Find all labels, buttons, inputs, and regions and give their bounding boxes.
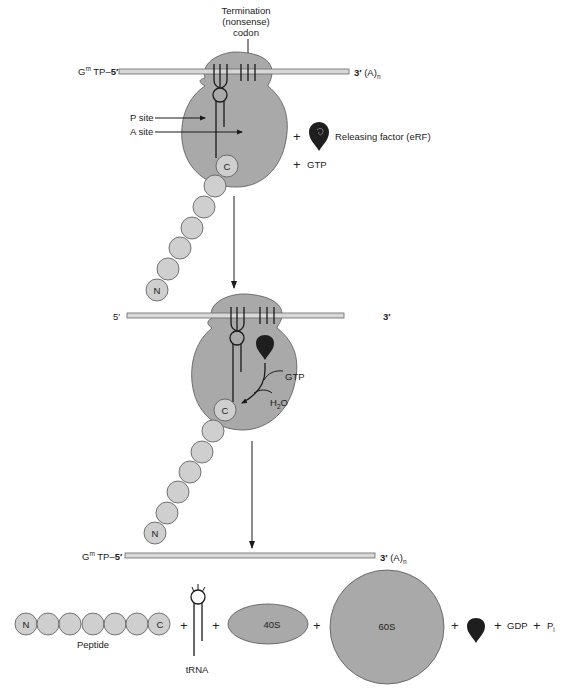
small-subunit-label: 40S <box>264 619 281 630</box>
peptide-label: Peptide <box>77 639 109 650</box>
a-site-label: A site <box>130 126 153 137</box>
svg-text:+: + <box>293 129 301 144</box>
release-factor-icon <box>309 122 329 151</box>
release-factor-label: Releasing factor (eRF) <box>335 131 431 142</box>
mrna-3prime-label-2: 3′ <box>383 311 391 322</box>
released-peptide: N C <box>15 613 170 635</box>
free-trna <box>191 584 205 656</box>
svg-text:+: + <box>293 157 301 172</box>
svg-text:N: N <box>154 285 161 296</box>
mrna-5prime-label-3: Gm TP–5′ <box>82 550 123 562</box>
codon-label-line1: Termination <box>221 5 270 16</box>
codon-label-line2: (nonsense) <box>222 16 270 27</box>
svg-text:N: N <box>23 619 30 630</box>
mrna-strand-3 <box>125 553 375 558</box>
gtp-label-1: GTP <box>307 159 327 170</box>
nascent-peptide-1: C N <box>146 155 238 301</box>
trna-label: tRNA <box>186 664 209 675</box>
mrna-strand-2 <box>127 313 344 318</box>
mrna-3prime-label-3: 3′ (A)n <box>380 552 407 565</box>
pi-label: Pi <box>547 620 555 633</box>
svg-text:+: + <box>451 618 459 633</box>
svg-text:N: N <box>152 528 159 539</box>
svg-text:+: + <box>180 618 188 633</box>
nascent-peptide-2: C N <box>144 399 236 544</box>
release-factor-free-icon <box>467 618 485 643</box>
mrna-5prime-label-1: Gm TP–5′ <box>78 65 119 77</box>
large-subunit-label: 60S <box>379 621 396 632</box>
panel-1-termination-recognition: Termination (nonsense) codon Gm TP–5′ 3′… <box>78 5 431 301</box>
gdp-label: GDP <box>507 620 528 631</box>
svg-text:+: + <box>212 618 220 633</box>
mrna-5prime-label-2: 5′ <box>113 311 120 322</box>
svg-text:C: C <box>222 405 229 416</box>
codon-label-line3: codon <box>233 27 259 38</box>
svg-text:+: + <box>494 618 502 633</box>
svg-text:C: C <box>157 619 164 630</box>
p-site-label: P site <box>130 112 154 123</box>
translation-termination-diagram: Termination (nonsense) codon Gm TP–5′ 3′… <box>0 0 567 698</box>
panel-3-dissociation-products: Gm TP–5′ 3′ (A)n N C Peptide + tRNA + 40… <box>15 550 555 684</box>
svg-text:C: C <box>224 161 231 172</box>
gtp-label-2: GTP <box>285 371 305 382</box>
svg-text:+: + <box>313 618 321 633</box>
svg-text:+: + <box>533 618 541 633</box>
mrna-3prime-label-1: 3′ (A)n <box>354 67 381 80</box>
mrna-strand-1 <box>119 69 349 74</box>
